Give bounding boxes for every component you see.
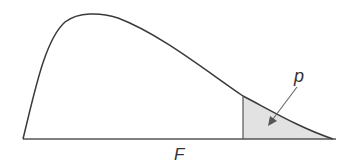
- arrow-shaft: [273, 87, 297, 119]
- x-axis-label-f: F: [174, 145, 186, 164]
- f-distribution-diagram: p F: [0, 0, 354, 166]
- area-label-p: p: [293, 66, 304, 86]
